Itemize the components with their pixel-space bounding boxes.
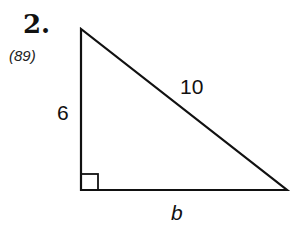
right-triangle-diagram: 6 10 b xyxy=(0,0,297,229)
right-angle-marker xyxy=(81,174,98,190)
label-horizontal-leg: b xyxy=(171,201,183,224)
triangle xyxy=(81,29,287,190)
label-hypotenuse: 10 xyxy=(180,75,203,98)
label-vertical-leg: 6 xyxy=(57,101,69,124)
